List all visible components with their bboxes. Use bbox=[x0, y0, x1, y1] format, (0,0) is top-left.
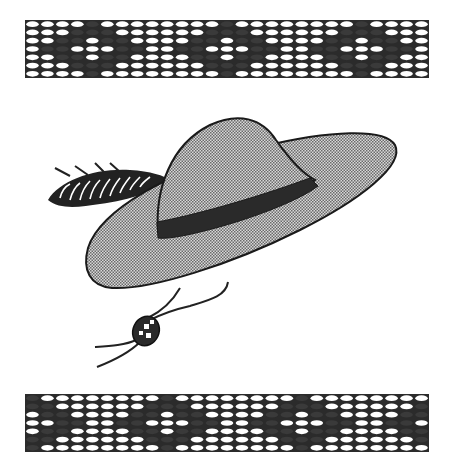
chin-cord bbox=[95, 282, 228, 367]
hat-illustration bbox=[0, 0, 454, 472]
cord-bead-icon bbox=[128, 312, 164, 350]
